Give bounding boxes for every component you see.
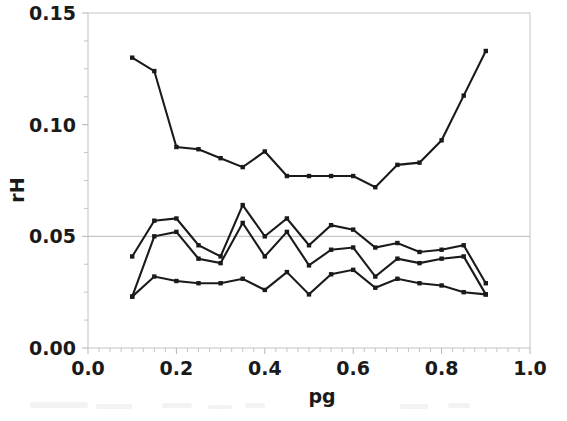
series-marker <box>395 256 399 260</box>
series-marker <box>307 292 311 296</box>
series-marker <box>130 254 134 258</box>
series-marker <box>263 288 267 292</box>
x-axis-title: pg <box>308 385 335 407</box>
x-tick-label: 0.0 <box>71 357 105 379</box>
x-tick-label: 0.4 <box>248 357 282 379</box>
series-marker <box>439 248 443 252</box>
series-marker <box>196 147 200 151</box>
series-marker <box>196 243 200 247</box>
series-marker <box>373 274 377 278</box>
series-marker <box>130 294 134 298</box>
series-marker <box>329 174 333 178</box>
series-marker <box>395 163 399 167</box>
x-tick-label: 0.8 <box>425 357 459 379</box>
series-marker <box>484 49 488 53</box>
series-marker <box>241 203 245 207</box>
series-marker <box>417 250 421 254</box>
series-marker <box>462 290 466 294</box>
series-marker <box>152 274 156 278</box>
series-marker <box>285 174 289 178</box>
series-marker <box>285 216 289 220</box>
series-marker <box>152 219 156 223</box>
series-marker <box>218 254 222 258</box>
series-marker <box>373 286 377 290</box>
series-marker <box>241 165 245 169</box>
y-tick-label: 0.10 <box>29 114 76 136</box>
series-marker <box>285 230 289 234</box>
y-tick-label: 0.05 <box>29 225 76 247</box>
line-chart: 0.00.20.40.60.81.0 0.000.050.100.15 pg r… <box>0 0 567 421</box>
series-marker <box>373 245 377 249</box>
series-marker <box>241 221 245 225</box>
series-marker <box>417 281 421 285</box>
series-marker <box>395 241 399 245</box>
series-marker <box>174 145 178 149</box>
series-marker <box>462 243 466 247</box>
series-marker <box>152 234 156 238</box>
series-marker <box>484 281 488 285</box>
series-marker <box>329 272 333 276</box>
series-marker <box>439 256 443 260</box>
y-axis-title: rH <box>6 177 28 202</box>
series-marker <box>218 261 222 265</box>
series-marker <box>174 216 178 220</box>
series-marker <box>263 254 267 258</box>
series-marker <box>196 256 200 260</box>
series-marker <box>439 138 443 142</box>
x-tick-label: 1.0 <box>513 357 547 379</box>
series-marker <box>174 230 178 234</box>
series-marker <box>329 223 333 227</box>
series-marker <box>307 243 311 247</box>
series-marker <box>395 277 399 281</box>
series-marker <box>351 245 355 249</box>
series-marker <box>417 261 421 265</box>
series-marker <box>373 185 377 189</box>
series-marker <box>263 149 267 153</box>
series-marker <box>152 69 156 73</box>
series-marker <box>417 160 421 164</box>
series-marker <box>174 279 178 283</box>
series-marker <box>484 292 488 296</box>
series-marker <box>307 174 311 178</box>
y-tick-label: 0.15 <box>29 2 76 24</box>
x-tick-label: 0.2 <box>160 357 194 379</box>
series-marker <box>329 248 333 252</box>
series-marker <box>285 270 289 274</box>
series-marker <box>263 234 267 238</box>
series-marker <box>462 254 466 258</box>
series-marker <box>351 268 355 272</box>
chart-page: 0.00.20.40.60.81.0 0.000.050.100.15 pg r… <box>0 0 567 421</box>
x-tick-label: 0.6 <box>336 357 370 379</box>
series-marker <box>241 277 245 281</box>
series-marker <box>218 156 222 160</box>
series-marker <box>351 227 355 231</box>
y-tick-label: 0.00 <box>29 337 76 359</box>
series-marker <box>307 263 311 267</box>
series-marker <box>439 283 443 287</box>
series-marker <box>351 174 355 178</box>
series-marker <box>196 281 200 285</box>
series-marker <box>462 93 466 97</box>
series-marker <box>130 55 134 59</box>
series-marker <box>218 281 222 285</box>
